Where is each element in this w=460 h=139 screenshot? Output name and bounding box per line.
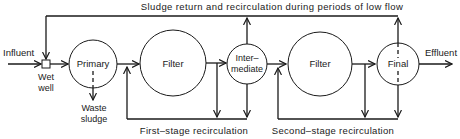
- filter1-label: Filter: [162, 58, 183, 69]
- filter2-label: Filter: [309, 58, 330, 69]
- wet-well-label-1: Wet: [38, 72, 54, 82]
- flow-diagram: Sludge return and recirculation during p…: [0, 0, 460, 139]
- final-label: Final: [388, 58, 409, 69]
- influent-label: Influent: [3, 47, 35, 58]
- intermediate-label-2: mediate: [231, 64, 263, 74]
- wet-well-label-2: well: [37, 83, 54, 93]
- effluent-label: Effluent: [425, 47, 457, 58]
- wet-well-box: [42, 60, 50, 68]
- second-stage-label: Second–stage recirculation: [272, 125, 394, 136]
- sludge-return-label: Sludge return and recirculation during p…: [141, 1, 403, 12]
- waste-sludge-label-1: Waste: [81, 103, 106, 113]
- first-stage-label: First–stage recirculation: [140, 125, 248, 136]
- primary-label: Primary: [77, 58, 110, 69]
- intermediate-label-1: Inter–: [235, 53, 258, 63]
- waste-sludge-label-2: sludge: [81, 114, 108, 124]
